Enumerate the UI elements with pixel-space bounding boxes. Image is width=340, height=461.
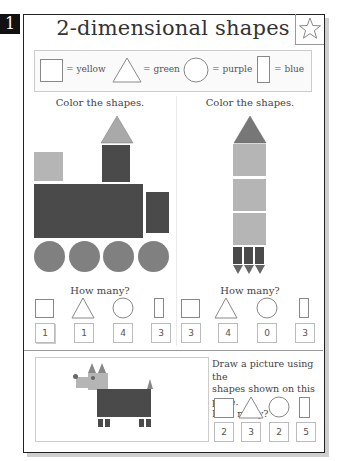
right-instruction: Color the shapes.	[177, 97, 323, 108]
dog-snout-square	[76, 377, 88, 388]
left-instruction: Color the shapes.	[24, 97, 176, 108]
dog-body-rect	[97, 389, 151, 417]
train-wheel-3[interactable]	[103, 241, 134, 272]
legend-triangle-icon	[112, 57, 142, 83]
left-count-rectangle-icon	[154, 298, 164, 318]
train-body-rect[interactable]	[34, 184, 143, 238]
rocket-square-2[interactable]	[233, 179, 266, 211]
legend-rectangle-icon	[257, 56, 270, 83]
bottom-count-triangle-value[interactable]: 3	[241, 422, 261, 442]
rocket-booster-rect-2[interactable]	[244, 247, 253, 264]
right-count-triangle-value[interactable]: 4	[218, 323, 238, 343]
train-wheel-4[interactable]	[138, 241, 169, 272]
train-chimney-rect[interactable]	[102, 145, 130, 182]
bottom-count-rectangle-value[interactable]: 5	[296, 422, 316, 442]
train-cab-square[interactable]	[34, 152, 63, 181]
dog-leg-1	[98, 419, 103, 427]
right-count-rectangle-icon	[299, 298, 309, 318]
rocket-booster-rect-1[interactable]	[233, 247, 242, 264]
right-count-circle-icon	[256, 297, 278, 319]
train-wheel-2[interactable]	[69, 241, 100, 272]
section-divider	[24, 350, 323, 351]
bottom-count-square-icon	[214, 398, 234, 418]
dog-leg-2	[105, 419, 110, 427]
dog-eye-circle	[91, 376, 95, 380]
left-count-square-value[interactable]: 1	[35, 323, 55, 343]
legend-green-label: = green	[143, 64, 180, 74]
dog-nose-circle	[73, 374, 78, 379]
train-front-rect[interactable]	[146, 192, 169, 233]
rocket-booster-rect-3[interactable]	[255, 247, 264, 264]
right-count-rectangle-value[interactable]: 3	[295, 323, 315, 343]
legend-square-icon	[40, 59, 63, 82]
right-count-square-icon	[181, 299, 200, 318]
left-count-circle-icon	[112, 297, 134, 319]
page-number-tab: 1	[0, 14, 20, 34]
dog-leg-3	[139, 419, 144, 427]
left-how-many-label: How many?	[24, 285, 176, 296]
rocket-square-3[interactable]	[233, 213, 266, 245]
rocket-nose-triangle[interactable]	[233, 115, 267, 144]
legend-circle-icon	[183, 57, 209, 83]
train-chimney-triangle[interactable]	[100, 115, 134, 144]
star-outline-icon	[296, 14, 324, 44]
right-count-triangle-icon	[214, 297, 238, 319]
train-wheel-1[interactable]	[34, 241, 65, 272]
dog-leg-4	[146, 419, 151, 427]
right-count-circle-value[interactable]: 0	[257, 323, 277, 343]
draw-instruction-line-1: Draw a picture using the	[212, 358, 322, 383]
rocket-square-1[interactable]	[233, 144, 266, 176]
panel-divider	[176, 96, 177, 346]
bottom-count-rectangle-icon	[299, 397, 310, 418]
bottom-count-circle-icon	[268, 396, 290, 418]
left-count-rectangle-value[interactable]: 3	[151, 323, 171, 343]
legend-blue-label: = blue	[274, 64, 304, 74]
right-how-many-label: How many?	[177, 285, 323, 296]
page-title: 2-dimensional shapes	[23, 16, 323, 40]
left-count-square-icon	[35, 299, 54, 318]
legend-yellow-label: = yellow	[66, 64, 106, 74]
star-box	[295, 14, 324, 45]
rocket-flame-triangles[interactable]	[232, 264, 266, 275]
right-count-square-value[interactable]: 3	[181, 323, 201, 343]
bottom-count-circle-value[interactable]: 2	[269, 422, 289, 442]
legend-purple-label: = purple	[212, 64, 252, 74]
left-count-circle-value[interactable]: 4	[113, 323, 133, 343]
left-count-triangle-value[interactable]: 1	[74, 323, 94, 343]
bottom-count-square-value[interactable]: 2	[214, 422, 234, 442]
left-count-triangle-icon	[71, 297, 95, 319]
bottom-count-triangle-icon	[238, 396, 264, 419]
